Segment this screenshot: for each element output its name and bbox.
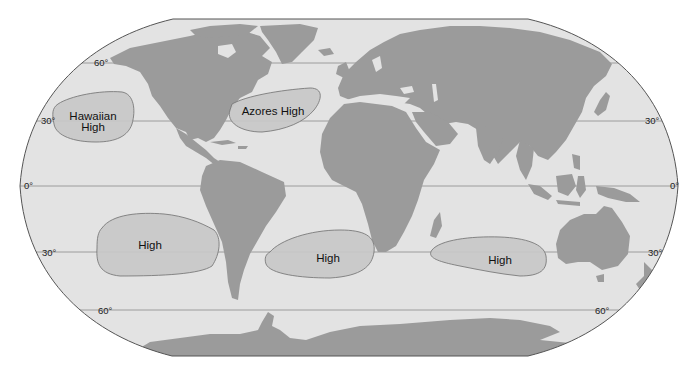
label-equator-left: 0°: [24, 180, 33, 191]
label-60s-right: 60°: [595, 305, 610, 316]
south-atlantic-high-label: High: [316, 252, 340, 264]
label-60s-left: 60°: [98, 305, 113, 316]
azores-high-label: Azores High: [242, 105, 305, 117]
label-equator-right: 0°: [670, 180, 679, 191]
south-pacific-high-label: High: [138, 239, 162, 251]
label-30s-right: 30°: [648, 247, 663, 258]
label-30n-right: 30°: [645, 115, 660, 126]
indian-high-label: High: [488, 254, 512, 266]
world-map: 60° 30° 30° 0° 0° 30° 30° 60° 60° Hawaii…: [0, 0, 694, 372]
label-30n-left: 30°: [41, 115, 56, 126]
label-60n-left: 60°: [94, 57, 109, 68]
hawaiian-high-label-line2: High: [81, 121, 105, 133]
label-30s-left: 30°: [42, 247, 57, 258]
